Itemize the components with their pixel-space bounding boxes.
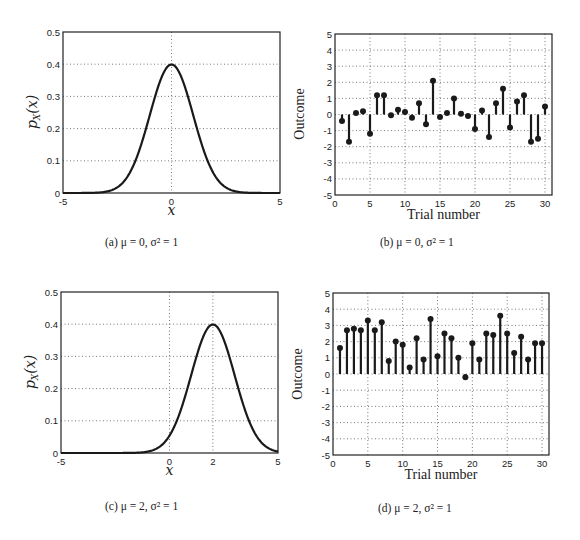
chart-a: 00.10.20.30.40.5-505xpX(x) xyxy=(24,27,283,219)
stem-marker xyxy=(395,107,401,113)
caption-c: (c) μ = 2, σ² = 1 xyxy=(105,500,178,512)
y-tick-label: 5 xyxy=(327,29,332,40)
stem-marker xyxy=(542,103,548,109)
y-tick-label: 0.4 xyxy=(45,319,58,330)
stem-marker xyxy=(379,319,385,325)
grid xyxy=(61,292,278,453)
y-tick-label: -1 xyxy=(324,125,332,136)
chart-d: -5-4-3-2-1012345051015202530Trial number… xyxy=(290,288,549,483)
stem-marker xyxy=(462,374,468,380)
y-tick-label: -5 xyxy=(324,190,332,201)
stem-marker xyxy=(497,313,503,319)
y-axis-label: Outcome xyxy=(292,88,307,139)
stem-marker xyxy=(416,100,422,106)
y-tick-label: 0.3 xyxy=(45,351,58,362)
y-tick-label: -2 xyxy=(322,401,330,412)
stem-marker xyxy=(437,114,443,120)
y-tick-label: 1 xyxy=(325,352,330,363)
stem-marker xyxy=(500,86,506,92)
stem-marker xyxy=(507,124,513,130)
y-tick-label: 0.1 xyxy=(45,415,58,426)
stem-marker xyxy=(504,331,510,337)
stem-marker xyxy=(528,139,534,145)
stem-marker xyxy=(493,100,499,106)
stem-marker xyxy=(393,339,399,345)
y-tick-label: 2 xyxy=(325,336,330,347)
stem-marker xyxy=(372,327,378,333)
stem-marker xyxy=(441,331,447,337)
stem-marker xyxy=(539,340,545,346)
x-tick-label: 5 xyxy=(275,456,280,467)
stem-marker xyxy=(386,358,392,364)
x-tick-label: 5 xyxy=(277,196,282,207)
y-tick-label: 0.1 xyxy=(47,155,60,166)
y-tick-label: 0 xyxy=(325,369,330,380)
stem-marker xyxy=(388,112,394,118)
x-axis-label: Trial number xyxy=(405,467,478,482)
y-axis-label: pX(x) xyxy=(24,95,42,129)
stem-marker xyxy=(346,139,352,145)
stem-marker xyxy=(358,327,364,333)
y-tick-label: -5 xyxy=(322,450,330,461)
x-axis-label: x xyxy=(168,202,176,218)
stem-marker xyxy=(448,335,454,341)
x-tick-label: 25 xyxy=(505,198,516,209)
stem-marker xyxy=(535,136,541,142)
y-tick-label: -1 xyxy=(322,385,330,396)
stem-marker xyxy=(532,340,538,346)
stem-marker xyxy=(353,110,359,116)
stem-marker xyxy=(430,78,436,84)
caption-b: (b) μ = 0, σ² = 1 xyxy=(380,236,454,248)
stem-marker xyxy=(421,356,427,362)
stem-marker xyxy=(525,356,531,362)
grid xyxy=(333,293,549,455)
stem-marker xyxy=(435,353,441,359)
stem-marker xyxy=(476,356,482,362)
y-tick-label: 0.5 xyxy=(45,287,58,298)
stem-marker xyxy=(414,335,420,341)
stem-marker xyxy=(337,345,343,351)
chart-b: -5-4-3-2-1012345051015202530Trial number… xyxy=(292,29,552,223)
stem-marker xyxy=(409,115,415,121)
caption-a: (a) μ = 0, σ² = 1 xyxy=(105,236,178,248)
x-tick-label: -5 xyxy=(57,456,65,467)
y-tick-label: 1 xyxy=(327,93,332,104)
y-tick-label: -4 xyxy=(324,173,332,184)
y-tick-label: 0 xyxy=(327,109,332,120)
stem-marker xyxy=(344,327,350,333)
stem-marker xyxy=(472,126,478,132)
stem-marker xyxy=(458,111,464,117)
x-tick-label: -5 xyxy=(59,196,67,207)
stem-marker xyxy=(400,342,406,348)
stem-marker xyxy=(381,92,387,98)
stem-marker xyxy=(365,318,371,324)
stem-marker xyxy=(465,113,471,119)
y-tick-label: 4 xyxy=(327,45,332,56)
stem-marker xyxy=(486,134,492,140)
y-tick-label: 0.4 xyxy=(47,59,60,70)
grid xyxy=(63,32,280,193)
stem-marker xyxy=(367,131,373,137)
y-tick-label: -3 xyxy=(322,417,330,428)
figure-canvas: 00.10.20.30.40.5-505xpX(x)-5-4-3-2-10123… xyxy=(0,0,580,540)
y-tick-label: 0.5 xyxy=(47,27,60,38)
stem-marker xyxy=(428,316,434,322)
x-tick-label: 0 xyxy=(332,198,337,209)
stem-marker xyxy=(455,355,461,361)
stem-marker xyxy=(483,331,489,337)
x-tick-label: 0 xyxy=(330,458,335,469)
stem-marker xyxy=(444,110,450,116)
stem-marker xyxy=(469,340,475,346)
y-tick-label: 0.2 xyxy=(47,123,60,134)
x-tick-label: 5 xyxy=(367,198,372,209)
y-tick-label: 4 xyxy=(325,304,330,315)
x-tick-label: 30 xyxy=(540,198,551,209)
chart-c: 00.10.20.30.40.5-5025xpX(x) xyxy=(22,287,281,479)
stem-marker xyxy=(521,92,527,98)
caption-d: (d) μ = 2, σ² = 1 xyxy=(378,502,452,514)
y-tick-label: 0.3 xyxy=(47,91,60,102)
stem-marker xyxy=(511,350,517,356)
stem-marker xyxy=(407,365,413,371)
y-tick-label: 3 xyxy=(327,61,332,72)
stem-marker xyxy=(451,95,457,101)
